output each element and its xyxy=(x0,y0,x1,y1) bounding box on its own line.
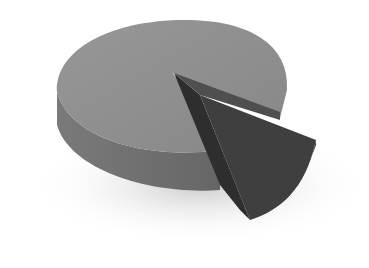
pie-chart-3d xyxy=(0,0,369,268)
